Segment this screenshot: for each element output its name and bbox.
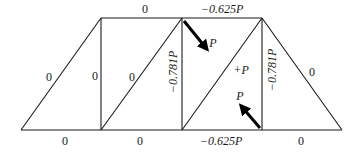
right-end-diagonal-label: 0 [309,65,315,79]
vertical-1-label: 0 [92,69,98,83]
bottom-chord-4-label: 0 [298,134,304,148]
bottom-chord-1-label: 0 [62,134,68,148]
left-end-diagonal-label: 0 [46,70,52,84]
bottom-chord-3-label: −0.625P [200,134,243,148]
bottom-load-arrow-icon [242,107,260,128]
bottom-load-label: P [235,89,244,103]
left-end-diagonal [21,18,101,130]
top-chord-left-label: 0 [142,2,148,16]
vertical-3-label: −0.781P [265,48,279,91]
diagonal-2-label: 0 [129,70,135,84]
truss-diagram: 0 −0.625P 0 0 −0.625P 0 0 0 0 −0.781P +P… [0,0,361,152]
top-load-label: P [208,36,217,50]
diagonal-3-label: +P [233,63,249,77]
bottom-chord-2-label: 0 [137,134,143,148]
vertical-2-label: −0.781P [166,50,180,93]
top-chord-right-label: −0.625P [201,2,244,16]
top-load-arrow-icon [184,21,206,48]
